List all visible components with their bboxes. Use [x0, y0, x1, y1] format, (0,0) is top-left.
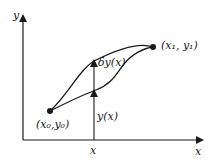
x-axis-label: x [195, 146, 201, 157]
start-point-label: (x₀,y₀) [36, 119, 69, 130]
diagram-canvas: y x (x₁, y₁) (x₀,y₀) δy(x) y(x) x [0, 0, 211, 162]
y-of-x-label: y(x) [97, 111, 118, 122]
end-point [150, 44, 156, 50]
start-point [47, 108, 53, 114]
x-marker-label: x [90, 145, 96, 156]
delta-y-label: δy(x) [98, 57, 126, 68]
diagram-svg [0, 0, 211, 162]
y-axis-label: y [13, 10, 19, 21]
end-point-label: (x₁, y₁) [161, 40, 198, 51]
